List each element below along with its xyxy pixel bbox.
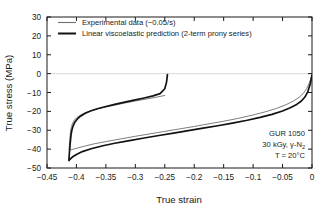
legend-label-prediction: Linear viscoelastic prediction (2-term p… (82, 29, 252, 38)
y-tick-label: 30 (32, 13, 42, 22)
y-tick-label: −50 (27, 164, 41, 173)
x-axis-label: True strain (156, 194, 202, 205)
y-tick-label: −10 (27, 89, 41, 98)
x-tick-label: −0.35 (96, 173, 117, 182)
chart-figure: −0.45−0.4−0.35−0.3−0.25−0.2−0.15−0.1−0.0… (0, 0, 330, 209)
annotation-dose: 30 kGy, γ-N2 (262, 140, 305, 150)
true-stress-strain-chart: −0.45−0.4−0.35−0.3−0.25−0.2−0.15−0.1−0.0… (0, 0, 330, 209)
x-tick-label: −0.45 (37, 173, 58, 182)
annotation-material: GUR 1050 (269, 129, 305, 138)
y-tick-label: 20 (32, 32, 42, 41)
x-tick-label: −0.2 (186, 173, 203, 182)
annotation-temperature: T = 20°C (275, 151, 306, 160)
y-tick-label: −40 (27, 145, 41, 154)
x-tick-label: −0.25 (154, 173, 175, 182)
x-tick-label: −0.15 (213, 173, 234, 182)
legend-label-experimental: Experimental data (−0.05/s) (82, 18, 176, 27)
y-tick-label: 10 (32, 51, 42, 60)
x-tick-label: −0.4 (68, 173, 85, 182)
x-tick-label: −0.05 (272, 173, 293, 182)
x-tick-label: −0.1 (245, 173, 262, 182)
y-tick-label: −30 (27, 126, 41, 135)
x-tick-label: 0 (310, 173, 315, 182)
y-tick-label: 0 (36, 70, 41, 79)
y-axis-label: True stress (MPa) (3, 55, 14, 131)
y-tick-label: −20 (27, 107, 41, 116)
x-tick-label: −0.3 (127, 173, 144, 182)
